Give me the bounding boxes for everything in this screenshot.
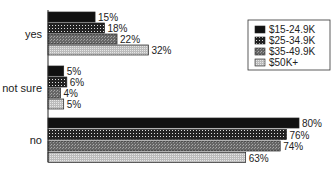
bar (48, 23, 104, 33)
legend-label: $35-49.9K (269, 46, 315, 57)
bar (48, 66, 64, 76)
data-label: 6% (70, 77, 85, 88)
bar (48, 12, 95, 22)
bar (48, 118, 299, 128)
bar (48, 99, 64, 109)
data-label: 22% (120, 34, 140, 45)
category-label: yes (25, 28, 43, 40)
data-label: 76% (289, 130, 309, 141)
bar (48, 34, 117, 44)
bar (48, 153, 246, 163)
category-label: no (30, 134, 42, 146)
legend-swatch (255, 48, 265, 55)
data-label: 5% (67, 66, 82, 77)
legend-label: $50K+ (269, 57, 298, 68)
bar (48, 130, 286, 140)
bar (48, 88, 61, 98)
legend-swatch (255, 26, 265, 33)
legend: $15-24.9K$25-34.9K$35-49.9K$50K+ (248, 20, 330, 70)
data-label: 74% (283, 141, 303, 152)
bar (48, 141, 280, 151)
legend-label: $15-24.9K (269, 24, 315, 35)
bar-chart: yes15%18%22%32%not sure5%6%4%5%no80%76%7… (0, 0, 335, 185)
data-label: 32% (151, 45, 171, 56)
bar (48, 45, 148, 55)
legend-swatch (255, 59, 265, 66)
data-label: 4% (64, 88, 79, 99)
bar (48, 77, 67, 87)
data-label: 5% (67, 99, 82, 110)
data-label: 80% (302, 118, 322, 129)
data-label: 18% (107, 23, 127, 34)
data-label: 15% (98, 12, 118, 23)
legend-swatch (255, 37, 265, 44)
data-label: 63% (249, 153, 269, 164)
category-label: not sure (2, 82, 42, 94)
legend-label: $25-34.9K (269, 35, 315, 46)
